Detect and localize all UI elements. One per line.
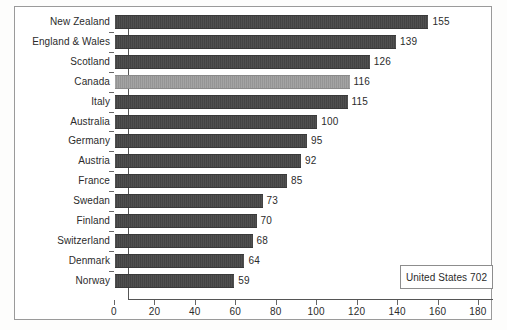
y-axis-tick [109,112,114,113]
bar-value-label: 59 [238,275,250,286]
category-label: Austria [15,155,110,166]
bar-value-label: 95 [311,135,323,146]
y-axis-tick [109,191,114,192]
x-axis-tick [235,300,236,305]
bar-value-label: 126 [374,56,391,67]
bar-value-label: 92 [305,155,317,166]
category-label: Australia [15,116,110,127]
x-axis-tick-label: 140 [377,306,417,317]
y-axis-tick [109,52,114,53]
y-axis-tick [109,231,114,232]
annotation-text: United States 702 [406,272,487,283]
category-label: Norway [15,275,110,286]
x-axis-tick [357,300,358,305]
bar-value-label: 85 [291,175,303,186]
bar-switzerland [115,234,253,248]
bar-finland [115,214,257,228]
category-label: Scotland [15,56,110,67]
bar-austria [115,154,301,168]
y-axis-tick [109,92,114,93]
category-label: Germany [15,135,110,146]
y-axis-tick [109,32,114,33]
x-axis-tick [276,300,277,305]
category-label: New Zealand [15,16,110,27]
x-axis-tick [195,300,196,305]
bar-italy [115,95,348,109]
x-axis-tick [316,300,317,305]
category-label: Finland [15,215,110,226]
y-axis-tick [109,271,114,272]
bar-denmark [115,254,244,268]
bar-germany [115,134,307,148]
x-axis-tick [114,300,115,305]
x-axis-tick-label: 0 [94,306,134,317]
bar-value-label: 100 [321,116,338,127]
x-axis-tick [154,300,155,305]
category-label: Denmark [15,255,110,266]
y-axis-tick [109,151,114,152]
x-axis-tick-label: 120 [337,306,377,317]
bar-value-label: 73 [267,195,279,206]
y-axis-tick [109,211,114,212]
bar-canada [115,75,350,89]
category-label: England & Wales [15,36,110,47]
bar-france [115,174,287,188]
category-label: Swedan [15,195,110,206]
x-axis-tick-label: 80 [256,306,296,317]
x-axis-tick [397,300,398,305]
y-axis-tick [109,251,114,252]
category-label: Switzerland [15,235,110,246]
y-axis-tick [109,131,114,132]
x-axis-tick-label: 160 [418,306,458,317]
bar-value-label: 115 [352,96,369,107]
bar-value-label: 139 [400,36,417,47]
x-axis-tick [478,300,479,305]
category-label: France [15,175,110,186]
bar-value-label: 70 [261,215,273,226]
bar-australia [115,115,317,129]
bar-swedan [115,194,263,208]
bar-value-label: 68 [257,235,269,246]
chart-frame: New ZealandEngland & WalesScotlandCanada… [14,6,492,320]
x-axis-tick-label: 40 [175,306,215,317]
y-axis-tick [109,171,114,172]
x-axis-tick-label: 20 [134,306,174,317]
x-axis-tick [438,300,439,305]
bar-new-zealand [115,15,428,29]
bar-value-label: 116 [354,76,371,87]
annotation-united-states: United States 702 [400,265,493,289]
bar-value-label: 64 [248,255,260,266]
category-label: Canada [15,76,110,87]
x-axis-tick-label: 180 [458,306,498,317]
bar-scotland [115,55,370,69]
bar-england-wales [115,35,396,49]
x-axis-tick-label: 100 [296,306,336,317]
y-axis-tick [109,72,114,73]
bar-value-label: 155 [432,16,449,27]
bar-norway [115,274,234,288]
x-axis-tick-label: 60 [215,306,255,317]
category-label: Italy [15,96,110,107]
